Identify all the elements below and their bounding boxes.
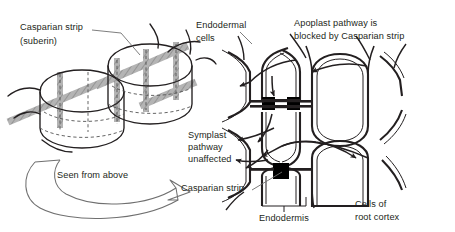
label-symplast-line2: pathway [188,142,223,153]
label-symplast-line3: unaffected [188,154,232,165]
label-seen-from-above: Seen from above [57,170,128,181]
label-cells-of-root-cortex-line2: root cortex [355,212,399,223]
label-endodermal-cells-line2: cells [196,33,215,44]
label-apoplast-pathway-line2: blocked by Casparian strip [294,31,404,42]
label-endodermal-cells-line1: Endodermal [196,20,246,31]
label-casparian-strip-left-line2: (suberin) [20,36,57,47]
label-casparian-strip-right: Casparian strip [181,183,244,194]
label-apoplast-pathway-line1: Apoplast pathway is [294,18,377,29]
casparian-block-lower [273,163,289,179]
label-symplast-line1: Symplast [188,130,226,141]
label-casparian-strip-left-line1: Casparian strip [20,22,83,33]
label-endodermis: Endodermis [259,213,309,224]
label-cells-of-root-cortex-line1: Cells of [355,199,386,210]
